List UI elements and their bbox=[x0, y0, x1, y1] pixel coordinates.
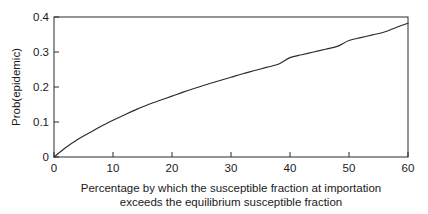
x-axis-title-line-2: exceeds the equilibrium susceptible frac… bbox=[120, 196, 342, 208]
x-tick-label-2: 20 bbox=[166, 162, 179, 174]
y-tick-label-4: 0.4 bbox=[33, 11, 50, 23]
x-tick-label-1: 10 bbox=[107, 162, 120, 174]
line-chart: 0 0.1 0.2 0.3 0.4 0 10 20 30 40 50 60 bbox=[0, 0, 428, 214]
y-tick-label-3: 0.3 bbox=[33, 46, 49, 58]
x-tick-label-0: 0 bbox=[51, 162, 57, 174]
y-tick-label-2: 0.2 bbox=[33, 81, 49, 93]
x-tick-label-6: 60 bbox=[402, 162, 415, 174]
x-axis-title-line-1: Percentage by which the susceptible frac… bbox=[81, 182, 381, 194]
y-tick-label-1: 0.1 bbox=[33, 116, 49, 128]
y-tick-label-0: 0 bbox=[43, 151, 49, 163]
y-axis-title: Prob(epidemic) bbox=[10, 48, 22, 126]
chart-figure: 0 0.1 0.2 0.3 0.4 0 10 20 30 40 50 60 bbox=[0, 0, 428, 214]
x-tick-label-3: 30 bbox=[225, 162, 238, 174]
x-tick-label-4: 40 bbox=[284, 162, 297, 174]
x-tick-label-5: 50 bbox=[343, 162, 356, 174]
